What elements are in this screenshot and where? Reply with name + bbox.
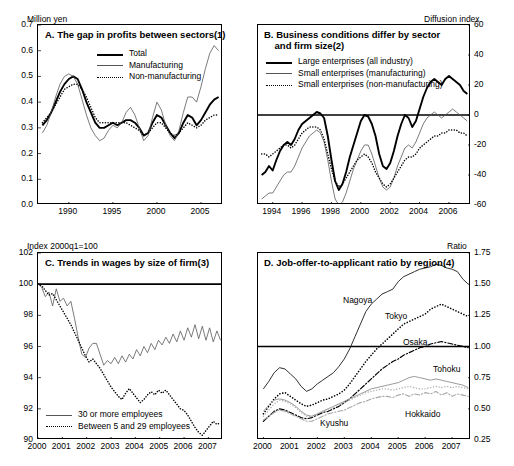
y-tick-label: 102	[1, 247, 33, 257]
series-non-manufacturing	[42, 84, 218, 135]
panel-c-legend: 30 or more employees Between 5 and 29 em…	[46, 409, 190, 432]
four-panel-figure: Million yen A. The gap in profits betwee…	[0, 0, 514, 466]
panel-d-y-unit: Ratio	[447, 241, 467, 251]
panel-a-title: A. The gap in profits between sectors(1)	[45, 29, 226, 40]
panel-b-title: B. Business conditions differ by sector …	[264, 29, 440, 51]
legend-item-small-manufacturing: Small enterprises (manufacturing)	[266, 68, 443, 80]
y-tick-label: 0	[474, 109, 506, 119]
legend-key-line-icon	[97, 71, 123, 83]
y-tick-label: 0.1	[1, 173, 33, 183]
annotation-kyushu: Kyushu	[320, 418, 348, 428]
x-tick-label: 1995	[92, 206, 132, 216]
y-tick-label: 96	[1, 341, 33, 351]
y-tick-label: 100	[1, 278, 33, 288]
y-tick-label: 60	[474, 19, 506, 29]
panel-b-chart-svg	[258, 25, 470, 204]
x-tick-label: 2000	[136, 206, 176, 216]
panel-a-legend: Total Manufacturing Non-manufacturing	[97, 48, 201, 83]
legend-label: Small enterprises (manufacturing)	[298, 68, 426, 80]
legend-key-line-icon	[46, 409, 72, 421]
legend-item-manufacturing: Manufacturing	[97, 60, 201, 72]
annotation-hokkaido: Hokkaido	[405, 409, 440, 419]
y-tick-label: -40	[474, 169, 506, 179]
legend-item-large-all-industry: Large enterprises (all industry)	[266, 56, 443, 68]
y-tick-label: -60	[474, 199, 506, 209]
y-tick-label: 0.25	[474, 434, 506, 444]
x-tick-label: 2007	[431, 441, 471, 451]
legend-label: Non-manufacturing	[129, 71, 201, 83]
legend-key-line-icon	[266, 79, 292, 91]
y-tick-label: -20	[474, 139, 506, 149]
legend-label: Total	[129, 48, 147, 60]
panel-c-y-unit: Index 2000q1=100	[27, 241, 98, 251]
x-tick-label: 2005	[180, 206, 220, 216]
panel-b-plot-area	[257, 24, 470, 204]
y-tick-label: 94	[1, 372, 33, 382]
legend-item-30-or-more: 30 or more employees	[46, 409, 190, 421]
y-tick-label: 0.7	[1, 19, 33, 29]
y-tick-label: 0.6	[1, 45, 33, 55]
y-tick-label: 0.3	[1, 122, 33, 132]
legend-key-line-icon	[266, 56, 292, 68]
legend-item-total: Total	[97, 48, 201, 60]
annotation-osaka: Osaka	[403, 337, 428, 347]
legend-key-line-icon	[46, 421, 72, 433]
legend-key-line-icon	[97, 60, 123, 72]
y-tick-label: 0.4	[1, 96, 33, 106]
legend-label: Small enterprises (non-manufacturing)	[298, 79, 443, 91]
y-tick-label: 0.75	[474, 372, 506, 382]
panel-c-title: C. Trends in wages by size of firm(3)	[45, 257, 209, 268]
x-tick-label: 2007	[187, 441, 227, 451]
panel-d-title: D. Job-offer-to-applicant ratio by regio…	[264, 257, 455, 268]
legend-label: Large enterprises (all industry)	[298, 56, 413, 68]
legend-label: Between 5 and 29 employees	[78, 421, 190, 433]
legend-key-line-icon	[97, 48, 123, 60]
x-tick-label: 2006	[428, 206, 468, 216]
panel-b-y-unit: Diffusion index	[424, 14, 480, 24]
series-large-enterprises-all-industry-	[262, 76, 468, 190]
y-tick-label: 0.0	[1, 199, 33, 209]
series-30-or-more-employees	[38, 284, 221, 365]
legend-key-line-icon	[266, 68, 292, 80]
y-tick-label: 1.50	[474, 278, 506, 288]
y-tick-label: 1.75	[474, 247, 506, 257]
y-tick-label: 40	[474, 49, 506, 59]
series-small-enterprises-manufacturing-	[262, 109, 468, 204]
legend-label: 30 or more employees	[78, 409, 163, 421]
annotation-nagoya: Nagoya	[343, 295, 372, 305]
annotation-tokyo: Tokyo	[385, 311, 407, 321]
series-tokyo	[263, 304, 468, 414]
x-tick-label: 1990	[48, 206, 88, 216]
panel-a-y-unit: Million yen	[27, 14, 67, 24]
y-tick-label: 0.50	[474, 403, 506, 413]
y-tick-label: 98	[1, 309, 33, 319]
panel-b-legend: Large enterprises (all industry) Small e…	[266, 56, 443, 91]
y-tick-label: 0.5	[1, 70, 33, 80]
y-tick-label: 1.00	[474, 341, 506, 351]
y-tick-label: 20	[474, 79, 506, 89]
legend-label: Manufacturing	[129, 60, 183, 72]
y-tick-label: 92	[1, 403, 33, 413]
series-small-enterprises-non-manufacturing-	[262, 127, 468, 187]
legend-item-non-manufacturing: Non-manufacturing	[97, 71, 201, 83]
y-tick-label: 0.2	[1, 148, 33, 158]
legend-item-small-non-manufacturing: Small enterprises (non-manufacturing)	[266, 79, 443, 91]
annotation-tohoku: Tohoku	[433, 364, 460, 374]
legend-item-5-to-29: Between 5 and 29 employees	[46, 421, 190, 433]
y-tick-label: 1.25	[474, 309, 506, 319]
